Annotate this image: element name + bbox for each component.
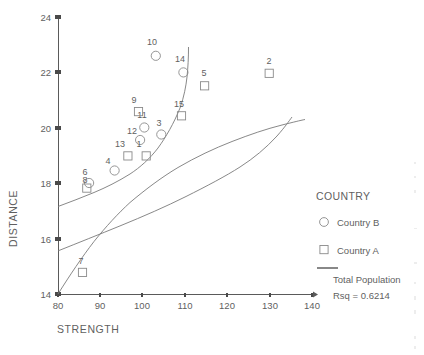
data-point-10: 10 <box>147 37 160 60</box>
y-tick-18 <box>56 182 60 184</box>
point-label: 7 <box>78 256 83 266</box>
marker-square <box>124 152 132 160</box>
point-label: 1 <box>136 139 141 149</box>
chart-canvas: 24 22 20 18 16 14 80 90 100 110 120 130 … <box>0 0 424 355</box>
y-tick-label-14: 14 <box>40 289 51 300</box>
x-tick-label-80: 80 <box>53 300 64 311</box>
legend-rsq-value: Rsq = 0.6214 <box>333 290 390 301</box>
data-point-11: 11 <box>137 110 149 132</box>
y-tick-22 <box>56 71 60 73</box>
x-tick-130 <box>269 293 271 297</box>
x-axis-title: STRENGTH <box>57 323 120 335</box>
data-point-3: 3 <box>156 118 165 139</box>
point-label: 3 <box>156 118 161 128</box>
scatter-chart: 24 22 20 18 16 14 80 90 100 110 120 130 … <box>0 0 424 355</box>
artifact-mark <box>414 176 416 178</box>
artifact-mark <box>414 190 416 193</box>
artifact-mark <box>414 310 416 314</box>
y-tick-16 <box>56 238 60 240</box>
x-tick-label-100: 100 <box>134 300 150 311</box>
y-tick-24 <box>56 16 60 18</box>
marker-square <box>78 268 86 276</box>
artifact-mark <box>414 282 416 284</box>
point-label: 4 <box>105 156 110 166</box>
point-label: 10 <box>147 37 157 47</box>
artifact-mark <box>414 162 416 164</box>
legend-entry-country-b[interactable]: Country B <box>320 217 380 228</box>
point-label: 5 <box>201 68 206 78</box>
data-point-4: 4 <box>105 156 119 175</box>
fit-curves <box>58 47 305 294</box>
legend: COUNTRY Country B Country A Total Popula… <box>316 190 401 301</box>
x-tick-140 <box>311 293 313 297</box>
x-tick-labels: 80 90 100 110 120 130 140 <box>53 300 320 311</box>
artifact-mark <box>414 228 417 229</box>
x-axis-arrow <box>313 292 318 298</box>
point-label: 2 <box>266 56 271 66</box>
y-tick-label-22: 22 <box>40 67 51 78</box>
point-label: 12 <box>127 126 137 136</box>
data-point-14: 14 <box>175 54 188 77</box>
artifact-mark <box>414 296 416 300</box>
data-point-2: 2 <box>265 56 273 77</box>
x-tick-label-140: 140 <box>304 300 320 311</box>
marker-square <box>265 69 273 77</box>
x-tick-90 <box>99 293 101 297</box>
data-point-13: 13 <box>115 139 132 160</box>
marker-square <box>83 184 91 192</box>
x-tick-120 <box>226 293 228 297</box>
x-tick-100 <box>141 293 143 297</box>
x-tick-label-130: 130 <box>262 300 278 311</box>
upper-confidence-band <box>58 47 189 207</box>
artifact-mark <box>414 346 416 349</box>
marker-circle <box>179 68 188 77</box>
legend-entry-total-population[interactable]: Total Population <box>317 268 401 285</box>
point-label: 15 <box>174 99 184 109</box>
marker-square <box>177 112 185 120</box>
x-tick-label-110: 110 <box>177 300 192 311</box>
legend-circle-icon <box>320 218 329 227</box>
regression-line-total-population <box>58 117 292 251</box>
marker-circle <box>151 51 160 60</box>
point-label: 8 <box>82 175 87 185</box>
x-tick-label-90: 90 <box>95 300 106 311</box>
y-tick-label-20: 20 <box>40 123 51 134</box>
marker-circle <box>140 123 149 132</box>
y-tick-labels: 24 22 20 18 16 14 <box>40 12 51 300</box>
legend-label-total-population: Total Population <box>333 274 401 285</box>
series-country-b-points: 10 14 11 3 12 4 <box>82 37 188 188</box>
y-tick-label-24: 24 <box>40 12 51 23</box>
point-label: 14 <box>175 54 185 64</box>
series-country-a-points: 2 5 9 15 13 1 <box>78 56 273 277</box>
legend-label-country-b: Country B <box>337 217 379 228</box>
data-point-8: 8 <box>82 175 90 192</box>
artifact-mark <box>414 262 417 264</box>
legend-label-country-a: Country A <box>337 245 379 256</box>
marker-circle <box>157 130 166 139</box>
y-tick-20 <box>56 127 60 129</box>
point-label: 9 <box>131 95 136 105</box>
marker-square <box>201 82 209 90</box>
legend-entry-country-a[interactable]: Country A <box>320 245 379 256</box>
x-tick-label-120: 120 <box>219 300 235 311</box>
y-tick-label-16: 16 <box>40 234 51 245</box>
scan-artifacts <box>414 162 417 349</box>
x-tick-110 <box>184 293 186 297</box>
point-label: 11 <box>137 110 146 120</box>
legend-square-icon <box>320 246 328 254</box>
y-tick-label-18: 18 <box>40 178 51 189</box>
data-point-1: 1 <box>136 139 150 160</box>
y-axis-title: DISTANCE <box>7 190 19 247</box>
point-label: 13 <box>115 139 125 149</box>
artifact-mark <box>414 336 416 339</box>
marker-circle <box>110 166 119 175</box>
legend-title: COUNTRY <box>316 190 371 202</box>
data-point-7: 7 <box>78 256 86 277</box>
data-point-5: 5 <box>201 68 209 90</box>
